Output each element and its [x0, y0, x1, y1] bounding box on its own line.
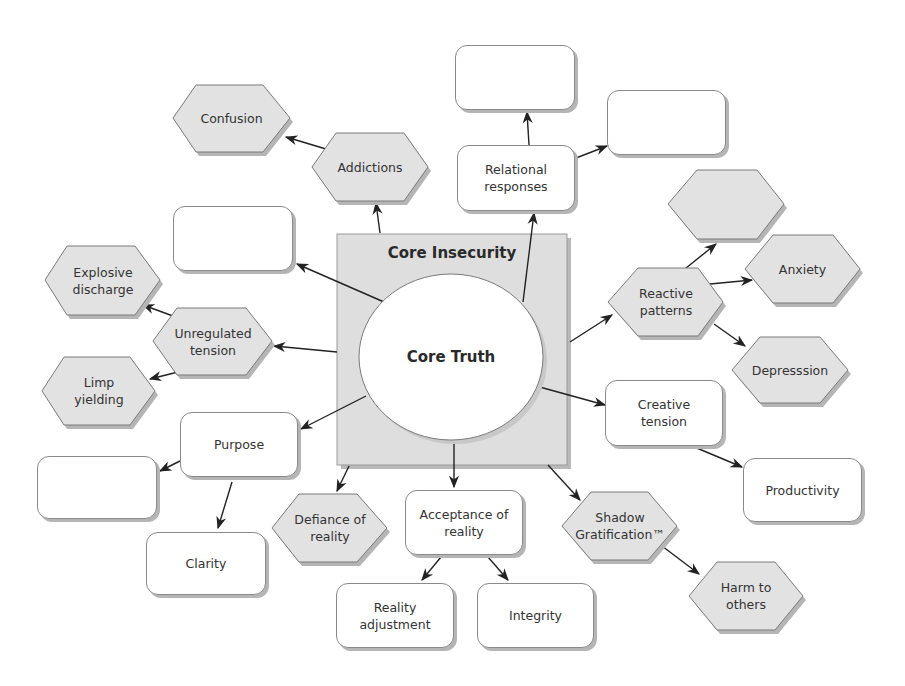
node-reality-adjustment: Reality adjustment [336, 583, 454, 648]
node-acceptance-of-reality: Acceptance of reality [405, 490, 523, 555]
node-clarity: Clarity [146, 532, 266, 595]
node-purpose: Purpose [180, 412, 298, 477]
core-truth-label: Core Truth [359, 274, 543, 440]
core-insecurity-label: Core Insecurity [337, 244, 567, 262]
node-relational-responses: Relational responses [457, 145, 575, 211]
node-empty-box-top-right [607, 90, 726, 155]
node-empty-box-left-upper [173, 206, 293, 271]
core-insecurity-diagram: Core Insecurity Core Truth Confusion Add… [0, 0, 905, 686]
node-productivity: Productivity [743, 458, 862, 522]
node-empty-box-left-lower [37, 456, 157, 519]
node-integrity: Integrity [477, 583, 594, 648]
node-creative-tension: Creative tension [605, 380, 723, 446]
node-empty-box-top [455, 45, 575, 110]
